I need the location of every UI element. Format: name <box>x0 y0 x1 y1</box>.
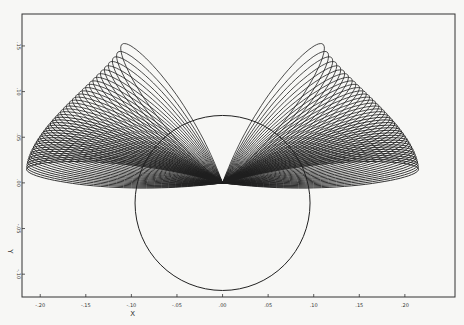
reference-circle <box>135 115 310 290</box>
x-tick-label: .10 <box>310 302 318 308</box>
y-tick-label: .15 <box>16 42 22 50</box>
loop-family-right <box>223 44 419 189</box>
x-tick-label: -.10 <box>127 302 137 308</box>
x-axis-label: X <box>130 310 135 318</box>
y-tick-label: -.10 <box>16 269 22 279</box>
y-axis-label: Y <box>6 248 14 254</box>
x-tick-label: .00 <box>219 302 227 308</box>
x-tick-label: -.20 <box>35 302 45 308</box>
x-tick-label: -.15 <box>81 302 91 308</box>
x-axis-ticks: -.20-.15-.10-.05.00.05.10.15.20 <box>35 294 408 308</box>
x-tick-label: .05 <box>264 302 272 308</box>
x-tick-label: .20 <box>401 302 409 308</box>
y-tick-label: -.05 <box>16 224 22 234</box>
loop-family-left <box>27 44 223 189</box>
y-tick-label: .00 <box>16 179 22 187</box>
x-tick-label: .15 <box>355 302 363 308</box>
y-tick-label: .10 <box>16 88 22 96</box>
chart: -.20-.15-.10-.05.00.05.10.15.20 .15.10.0… <box>0 0 464 325</box>
y-tick-label: .05 <box>16 133 22 141</box>
y-axis-ticks: .15.10.05.00-.05-.10 <box>16 42 25 279</box>
x-tick-label: -.05 <box>172 302 182 308</box>
